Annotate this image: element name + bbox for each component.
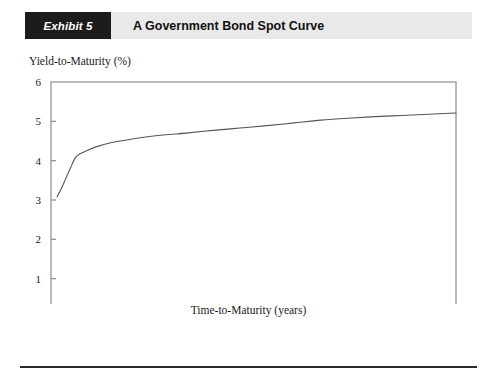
exhibit-header: Exhibit 5 A Government Bond Spot Curve (25, 12, 472, 39)
exhibit-title: A Government Bond Spot Curve (111, 12, 472, 39)
bottom-rule-divider (20, 366, 477, 368)
y-tick-label: 3 (36, 194, 42, 206)
y-tick-label: 6 (36, 76, 42, 88)
spot-curve-plot: 0123456 051015202530 (0, 39, 497, 304)
chart-figure: Yield-to-Maturity (%) 0123456 0510152025… (0, 39, 497, 349)
x-axis-title: Time-to-Maturity (years) (0, 304, 497, 316)
y-tick-label: 5 (36, 115, 42, 127)
y-tick-label: 4 (36, 155, 42, 167)
data-series-group (57, 113, 456, 197)
y-tick-label: 1 (36, 273, 42, 285)
y-tick-label: 2 (36, 233, 42, 245)
spot-curve-line (57, 113, 456, 197)
exhibit-number-tag: Exhibit 5 (25, 12, 111, 39)
y-axis-ticks: 0123456 (36, 76, 57, 304)
